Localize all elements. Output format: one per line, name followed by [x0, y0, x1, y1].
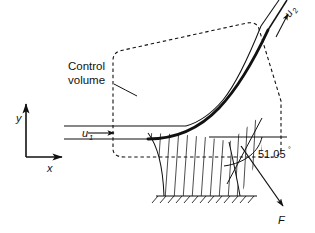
inlet-velocity-subscript: 1 — [89, 133, 93, 142]
angle-value-label: 51.05 — [258, 148, 286, 160]
control-volume-label-line2: volume — [68, 74, 105, 86]
control-volume-leader — [114, 84, 137, 96]
force-label: F — [278, 214, 286, 226]
angle-degree-symbol: ° — [288, 146, 291, 153]
jet-outer-boundary — [186, 26, 261, 127]
x-axis-label: x — [46, 162, 53, 174]
coordinate-axes — [26, 104, 62, 157]
vane-surface — [148, 30, 268, 139]
jet-vane-control-volume-diagram: Control volume u 1 u 2 y x 51.05 ° F — [0, 0, 315, 233]
angle-arc — [224, 137, 262, 166]
y-axis-label: y — [15, 112, 23, 124]
ground-hatching — [152, 196, 254, 203]
outlet-jet-outer-edge — [261, 0, 279, 26]
curved-vane — [148, 30, 268, 139]
outlet-velocity-arrow — [276, 14, 288, 37]
pedestal-left-edge — [148, 133, 164, 196]
figure-container: Control volume u 1 u 2 y x 51.05 ° F — [0, 0, 315, 233]
inlet-velocity-label: u — [82, 127, 88, 139]
outlet-jet — [261, 0, 288, 37]
ground — [152, 196, 257, 203]
control-volume-label-line1: Control — [68, 60, 105, 72]
jet-outer-curve — [186, 26, 261, 126]
control-volume-leader-line — [114, 84, 137, 96]
